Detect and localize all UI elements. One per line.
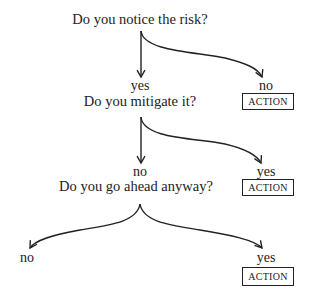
answer-yes-go-ahead: yes [257,251,276,265]
answer-no-mitigate: no [133,165,147,179]
edge-q3-yes [140,204,262,248]
action-box-mitigated: ACTION [242,179,294,196]
decision-tree-diagram: Do you notice the risk? yes no Do you mi… [0,0,309,305]
edge-q1-no [141,31,262,77]
answer-no-notice: no [259,79,273,93]
question-go-ahead: Do you go ahead anyway? [59,179,213,194]
edge-q2-yes [141,117,261,163]
action-box-not-noticed: ACTION [242,93,294,110]
question-mitigate: Do you mitigate it? [84,94,196,109]
answer-no-go-ahead: no [20,251,34,265]
answer-yes-notice: yes [131,79,150,93]
action-box-go-ahead: ACTION [242,267,294,286]
question-notice-risk: Do you notice the risk? [72,12,207,27]
answer-yes-mitigate: yes [257,165,276,179]
edge-q3-no [30,204,140,248]
